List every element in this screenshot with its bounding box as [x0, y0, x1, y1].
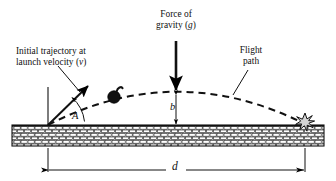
- apex-height-label: b: [170, 101, 175, 112]
- initial-trajectory-label: Initial trajectory at launch velocity (v…: [16, 46, 86, 68]
- projectile-motion-diagram: Initial trajectory at launch velocity (v…: [0, 0, 336, 181]
- force-of-gravity-label-line1: Force of: [136, 9, 216, 20]
- range-label: d: [172, 161, 178, 172]
- force-of-gravity-label: Force of gravity (g): [136, 9, 216, 31]
- force-of-gravity-label-line2: gravity (g): [136, 20, 216, 31]
- flight-path-label: Flight path: [228, 45, 274, 67]
- flight-path-leader-line: [233, 70, 248, 95]
- launch-angle-label: A: [72, 110, 78, 121]
- bomb-projectile-icon: [108, 87, 123, 103]
- initial-trajectory-leader-line: [58, 66, 80, 92]
- flight-path-label-line1: Flight: [228, 45, 274, 56]
- initial-trajectory-label-line1: Initial trajectory at: [16, 46, 86, 57]
- ground-band: [12, 125, 324, 146]
- initial-trajectory-label-line2: launch velocity (v): [16, 57, 86, 68]
- flight-path-label-line2: path: [228, 56, 274, 67]
- initial-velocity-arrow: [48, 86, 88, 125]
